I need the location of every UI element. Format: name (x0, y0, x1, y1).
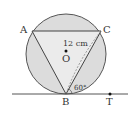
radius-label: 12 cm (63, 39, 88, 48)
label-t: T (106, 96, 113, 107)
geometry-diagram: A C O B T 12 cm 60° (0, 0, 129, 116)
diagram-canvas: A C O B T 12 cm 60° (0, 0, 129, 116)
label-o: O (62, 53, 70, 64)
label-a: A (19, 24, 28, 35)
angle-label: 60° (74, 84, 86, 92)
label-c: C (103, 24, 111, 35)
label-b: B (62, 96, 69, 107)
